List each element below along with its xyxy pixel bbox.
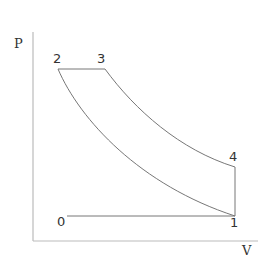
point-label-2: 2	[53, 51, 61, 66]
point-label-1: 1	[230, 215, 238, 230]
point-label-0: 0	[57, 214, 65, 229]
point-label-3: 3	[97, 51, 105, 66]
pv-diagram: P V 2 3 4 1 0	[0, 0, 260, 273]
curve-3-4	[105, 69, 235, 167]
curve-1-2	[58, 69, 235, 216]
point-label-4: 4	[229, 149, 237, 164]
y-axis-label: P	[14, 36, 23, 51]
x-axis-label: V	[241, 243, 252, 258]
